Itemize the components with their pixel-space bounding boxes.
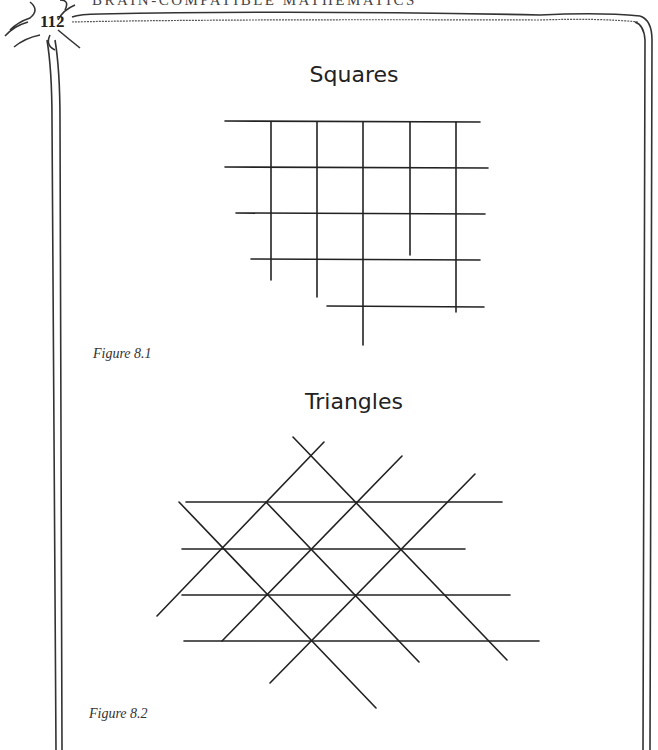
lattice-diagonal-line xyxy=(270,474,475,683)
triangles-lattice-figure xyxy=(0,0,658,750)
lattice-diagonal-line xyxy=(157,442,324,616)
figure-caption-8-2: Figure 8.2 xyxy=(89,706,148,722)
lattice-diagonal-line xyxy=(266,502,419,662)
